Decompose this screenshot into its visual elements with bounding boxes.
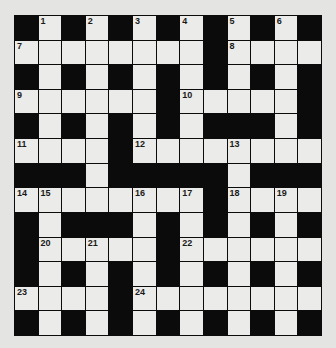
answer-cell[interactable] — [275, 287, 298, 311]
answer-cell[interactable] — [109, 238, 132, 262]
answer-cell[interactable] — [228, 90, 251, 114]
answer-cell[interactable] — [275, 65, 298, 89]
answer-cell[interactable]: 9 — [15, 90, 38, 114]
answer-cell[interactable] — [86, 262, 109, 286]
answer-cell[interactable] — [275, 114, 298, 138]
answer-cell[interactable]: 24 — [133, 287, 156, 311]
answer-cell[interactable] — [251, 90, 274, 114]
answer-cell[interactable]: 15 — [39, 188, 62, 212]
answer-cell[interactable] — [180, 139, 203, 163]
answer-cell[interactable] — [86, 114, 109, 138]
answer-cell[interactable] — [39, 287, 62, 311]
answer-cell[interactable] — [62, 238, 85, 262]
answer-cell[interactable]: 20 — [39, 238, 62, 262]
answer-cell[interactable] — [204, 90, 227, 114]
answer-cell[interactable] — [157, 287, 180, 311]
answer-cell[interactable]: 5 — [228, 16, 251, 40]
answer-cell[interactable] — [62, 139, 85, 163]
answer-cell[interactable] — [133, 213, 156, 237]
answer-cell[interactable] — [133, 41, 156, 65]
answer-cell[interactable]: 6 — [275, 16, 298, 40]
answer-cell[interactable] — [298, 287, 321, 311]
answer-cell[interactable]: 16 — [133, 188, 156, 212]
answer-cell[interactable]: 1 — [39, 16, 62, 40]
answer-cell[interactable] — [86, 139, 109, 163]
answer-cell[interactable]: 8 — [228, 41, 251, 65]
answer-cell[interactable] — [133, 114, 156, 138]
answer-cell[interactable] — [86, 41, 109, 65]
answer-cell[interactable] — [275, 41, 298, 65]
answer-cell[interactable]: 7 — [15, 41, 38, 65]
answer-cell[interactable] — [204, 139, 227, 163]
answer-cell[interactable] — [133, 65, 156, 89]
answer-cell[interactable]: 4 — [180, 16, 203, 40]
answer-cell[interactable] — [133, 262, 156, 286]
answer-cell[interactable] — [62, 90, 85, 114]
answer-cell[interactable] — [228, 65, 251, 89]
answer-cell[interactable] — [62, 287, 85, 311]
answer-cell[interactable] — [180, 114, 203, 138]
answer-cell[interactable] — [275, 262, 298, 286]
answer-cell[interactable] — [39, 41, 62, 65]
answer-cell[interactable] — [228, 262, 251, 286]
answer-cell[interactable] — [275, 90, 298, 114]
answer-cell[interactable] — [86, 188, 109, 212]
answer-cell[interactable] — [180, 65, 203, 89]
answer-cell[interactable] — [62, 41, 85, 65]
answer-cell[interactable]: 19 — [275, 188, 298, 212]
answer-cell[interactable] — [228, 164, 251, 188]
answer-cell[interactable]: 21 — [86, 238, 109, 262]
answer-cell[interactable] — [39, 65, 62, 89]
answer-cell[interactable] — [86, 311, 109, 335]
answer-cell[interactable] — [39, 114, 62, 138]
answer-cell[interactable] — [180, 213, 203, 237]
answer-cell[interactable] — [86, 65, 109, 89]
answer-cell[interactable] — [39, 311, 62, 335]
answer-cell[interactable] — [39, 139, 62, 163]
answer-cell[interactable] — [275, 139, 298, 163]
answer-cell[interactable] — [62, 188, 85, 212]
answer-cell[interactable] — [251, 287, 274, 311]
answer-cell[interactable] — [133, 311, 156, 335]
answer-cell[interactable] — [39, 262, 62, 286]
answer-cell[interactable] — [180, 311, 203, 335]
answer-cell[interactable] — [157, 188, 180, 212]
answer-cell[interactable]: 2 — [86, 16, 109, 40]
answer-cell[interactable] — [228, 238, 251, 262]
answer-cell[interactable] — [109, 90, 132, 114]
answer-cell[interactable]: 14 — [15, 188, 38, 212]
answer-cell[interactable]: 11 — [15, 139, 38, 163]
answer-cell[interactable] — [298, 238, 321, 262]
answer-cell[interactable]: 10 — [180, 90, 203, 114]
answer-cell[interactable] — [275, 311, 298, 335]
answer-cell[interactable]: 18 — [228, 188, 251, 212]
answer-cell[interactable] — [228, 287, 251, 311]
answer-cell[interactable]: 22 — [180, 238, 203, 262]
answer-cell[interactable] — [204, 238, 227, 262]
answer-cell[interactable] — [157, 41, 180, 65]
answer-cell[interactable]: 3 — [133, 16, 156, 40]
answer-cell[interactable]: 23 — [15, 287, 38, 311]
answer-cell[interactable]: 17 — [180, 188, 203, 212]
answer-cell[interactable] — [275, 238, 298, 262]
answer-cell[interactable] — [180, 41, 203, 65]
answer-cell[interactable] — [86, 90, 109, 114]
answer-cell[interactable]: 12 — [133, 139, 156, 163]
answer-cell[interactable] — [86, 287, 109, 311]
answer-cell[interactable] — [204, 287, 227, 311]
answer-cell[interactable] — [251, 188, 274, 212]
answer-cell[interactable] — [109, 188, 132, 212]
answer-cell[interactable] — [39, 90, 62, 114]
answer-cell[interactable] — [298, 139, 321, 163]
answer-cell[interactable] — [228, 311, 251, 335]
answer-cell[interactable] — [251, 41, 274, 65]
answer-cell[interactable] — [109, 41, 132, 65]
answer-cell[interactable]: 13 — [228, 139, 251, 163]
answer-cell[interactable] — [298, 188, 321, 212]
answer-cell[interactable] — [86, 164, 109, 188]
answer-cell[interactable] — [157, 139, 180, 163]
answer-cell[interactable] — [133, 90, 156, 114]
answer-cell[interactable] — [180, 287, 203, 311]
answer-cell[interactable] — [251, 238, 274, 262]
answer-cell[interactable] — [180, 262, 203, 286]
